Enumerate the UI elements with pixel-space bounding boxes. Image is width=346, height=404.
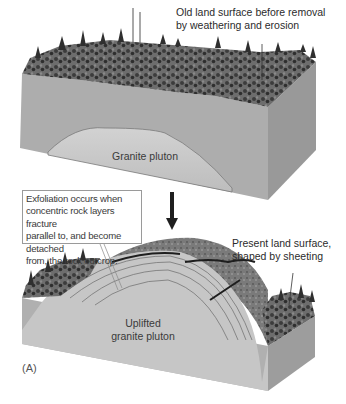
panel-label: (A)	[22, 362, 37, 374]
down-arrow-icon	[166, 192, 178, 230]
old-land-surface-label: Old land surface before removal by weath…	[176, 6, 325, 31]
present-land-surface-label-line-2: shaped by sheeting	[232, 250, 331, 263]
exfoliation-callout-box: Exfoliation occurs when concentric rock …	[22, 190, 142, 244]
uplifted-pluton-label-line-2: granite pluton	[98, 330, 188, 343]
present-land-surface-label-line-1: Present land surface,	[232, 237, 331, 250]
uplifted-pluton-label-line-1: Uplifted	[98, 317, 188, 330]
old-land-surface-label-line-1: Old land surface before removal	[176, 6, 325, 19]
granite-pluton-label: Granite pluton	[100, 150, 190, 163]
top-block	[20, 8, 316, 200]
uplifted-granite-pluton-label: Uplifted granite pluton	[98, 317, 188, 342]
present-land-surface-label: Present land surface, shaped by sheeting	[232, 237, 331, 262]
callout-line-1: Exfoliation occurs when	[26, 193, 138, 205]
old-land-surface-label-line-2: by weathering and erosion	[176, 19, 325, 32]
callout-line-4: from, the rock outcrop.	[26, 255, 138, 267]
callout-line-3: parallel to, and become detached	[26, 230, 138, 255]
callout-line-2: concentric rock layers fracture	[26, 205, 138, 230]
